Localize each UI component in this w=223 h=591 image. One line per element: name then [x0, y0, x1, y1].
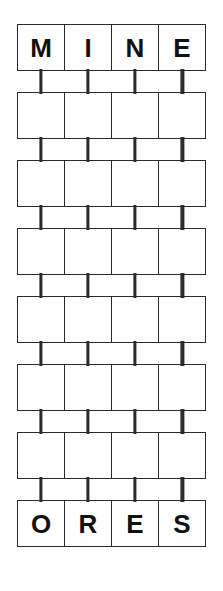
ladder-connector-gap	[17, 207, 206, 228]
ladder-connector-gap	[17, 411, 206, 432]
empty-letter-cell[interactable]	[65, 365, 112, 410]
empty-letter-cell[interactable]	[65, 297, 112, 342]
empty-letter-cell[interactable]	[112, 433, 159, 478]
empty-letter-cell[interactable]	[112, 297, 159, 342]
connector-bar	[181, 137, 184, 161]
empty-letter-cell[interactable]	[65, 229, 112, 274]
connector-bar	[86, 341, 89, 365]
connector-bar	[86, 477, 89, 501]
connector-bar	[134, 273, 137, 297]
empty-letter-cell[interactable]	[159, 229, 205, 274]
letter-cell[interactable]: N	[112, 25, 159, 70]
ladder-connector-gap	[17, 139, 206, 160]
connector-bar	[39, 137, 42, 161]
letter-cell[interactable]: M	[18, 25, 65, 70]
ladder-row: ORES	[17, 500, 206, 547]
ladder-connector-gap	[17, 479, 206, 500]
ladder-row	[17, 92, 206, 139]
ladder-connector-gap	[17, 275, 206, 296]
connector-bar	[134, 477, 137, 501]
empty-letter-cell[interactable]	[18, 161, 65, 206]
connector-bar	[134, 205, 137, 229]
empty-letter-cell[interactable]	[18, 297, 65, 342]
empty-letter-cell[interactable]	[112, 161, 159, 206]
empty-letter-cell[interactable]	[159, 433, 205, 478]
empty-letter-cell[interactable]	[65, 161, 112, 206]
connector-bar	[181, 409, 184, 433]
empty-letter-cell[interactable]	[18, 433, 65, 478]
ladder-connector-gap	[17, 343, 206, 364]
letter-cell[interactable]: O	[18, 501, 65, 546]
empty-letter-cell[interactable]	[159, 365, 205, 410]
connector-bar	[181, 477, 184, 501]
letter-cell[interactable]: I	[65, 25, 112, 70]
empty-letter-cell[interactable]	[18, 229, 65, 274]
connector-bar	[86, 409, 89, 433]
empty-letter-cell[interactable]	[159, 297, 205, 342]
empty-letter-cell[interactable]	[112, 365, 159, 410]
ladder-row	[17, 296, 206, 343]
empty-letter-cell[interactable]	[112, 229, 159, 274]
connector-bar	[39, 341, 42, 365]
connector-bar	[134, 69, 137, 93]
connector-bar	[39, 69, 42, 93]
connector-bar	[181, 205, 184, 229]
word-ladder-puzzle: MINEORES	[0, 0, 223, 591]
letter-cell[interactable]: R	[65, 501, 112, 546]
connector-bar	[86, 69, 89, 93]
connector-bar	[181, 69, 184, 93]
connector-bar	[39, 273, 42, 297]
ladder-row	[17, 160, 206, 207]
ladder-row	[17, 364, 206, 411]
empty-letter-cell[interactable]	[18, 365, 65, 410]
connector-bar	[39, 477, 42, 501]
letter-cell[interactable]: E	[112, 501, 159, 546]
ladder-row	[17, 228, 206, 275]
letter-cell[interactable]: S	[159, 501, 205, 546]
connector-bar	[86, 137, 89, 161]
connector-bar	[134, 137, 137, 161]
empty-letter-cell[interactable]	[65, 93, 112, 138]
connector-bar	[39, 205, 42, 229]
ladder-row: MINE	[17, 24, 206, 71]
empty-letter-cell[interactable]	[159, 93, 205, 138]
empty-letter-cell[interactable]	[112, 93, 159, 138]
ladder-grid: MINEORES	[17, 24, 206, 547]
connector-bar	[181, 341, 184, 365]
connector-bar	[86, 205, 89, 229]
connector-bar	[134, 409, 137, 433]
ladder-row	[17, 432, 206, 479]
empty-letter-cell[interactable]	[18, 93, 65, 138]
connector-bar	[181, 273, 184, 297]
connector-bar	[134, 341, 137, 365]
empty-letter-cell[interactable]	[159, 161, 205, 206]
connector-bar	[39, 409, 42, 433]
ladder-connector-gap	[17, 71, 206, 92]
letter-cell[interactable]: E	[159, 25, 205, 70]
connector-bar	[86, 273, 89, 297]
empty-letter-cell[interactable]	[65, 433, 112, 478]
